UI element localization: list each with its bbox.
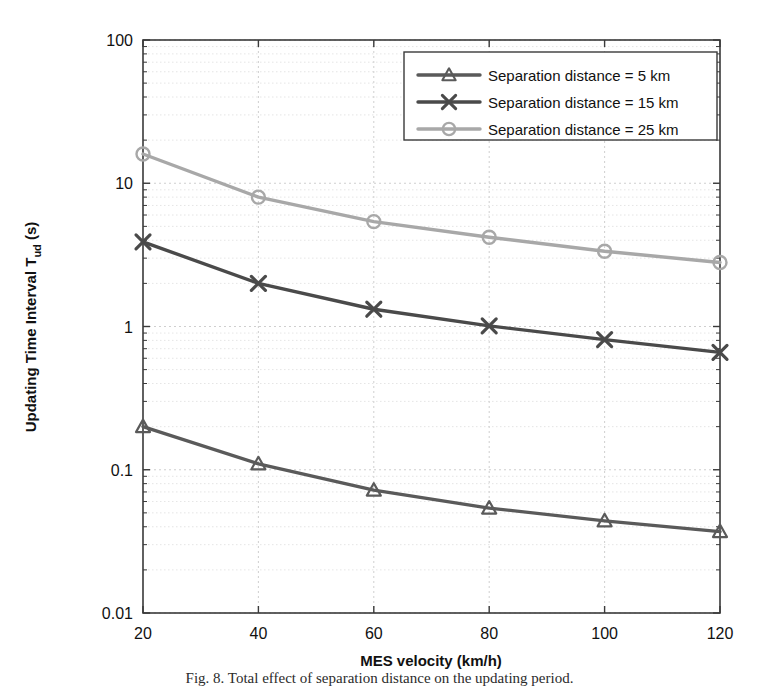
chart-plot: 20406080100120 0.010.1110100 MES velocit… — [0, 0, 759, 696]
legend-item-label: Separation distance = 25 km — [488, 121, 679, 138]
legend-item-label: Separation distance = 5 km — [488, 67, 670, 84]
y-axis-title-unit: (s) — [22, 222, 39, 245]
chart-legend[interactable]: Separation distance = 5 kmSeparation dis… — [404, 52, 717, 140]
x-tick-label: 100 — [591, 625, 618, 642]
legend-item-label: Separation distance = 15 km — [488, 94, 679, 111]
y-tick-labels: 0.010.1110100 — [102, 32, 133, 622]
y-tick-label: 100 — [106, 32, 133, 49]
figure-container: 20406080100120 0.010.1110100 MES velocit… — [0, 0, 759, 696]
y-tick-label: 0.1 — [111, 462, 133, 479]
y-tick-label: 1 — [124, 319, 133, 336]
x-tick-labels: 20406080100120 — [134, 625, 733, 642]
y-tick-label: 10 — [115, 175, 133, 192]
x-axis-title: MES velocity (km/h) — [360, 652, 502, 669]
y-axis-title-main: Updating Time Interval T — [22, 258, 39, 433]
x-tick-label: 20 — [134, 625, 152, 642]
x-tick-label: 60 — [365, 625, 383, 642]
x-tick-label: 80 — [480, 625, 498, 642]
y-axis-title-subscript: ud — [31, 244, 43, 257]
y-tick-label: 0.01 — [102, 605, 133, 622]
figure-caption: Fig. 8. Total effect of separation dista… — [0, 668, 759, 696]
x-tick-label: 40 — [250, 625, 268, 642]
y-axis-title: Updating Time Interval Tud (s) — [22, 222, 43, 433]
x-tick-label: 120 — [707, 625, 734, 642]
svg-text:Updating Time Interval Tud (s: Updating Time Interval Tud (s) — [22, 222, 43, 433]
